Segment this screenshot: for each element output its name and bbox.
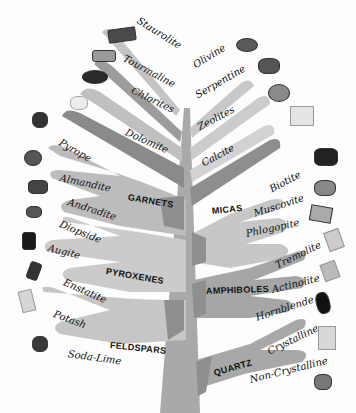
tree-branches: [0, 0, 356, 413]
gem-pyrope-icon: [32, 112, 48, 128]
gem-crystalline-quartz-icon: [318, 326, 336, 350]
gem-andradite-icon: [28, 180, 48, 194]
gem-zeolite-icon: [268, 84, 290, 102]
gem-non-crystalline-quartz-icon: [314, 374, 332, 390]
gem-tourmaline-icon: [92, 50, 116, 62]
gem-biotite-icon: [314, 148, 338, 166]
gem-calcite-icon: [290, 106, 314, 126]
gem-soda-lime-icon: [32, 336, 48, 352]
gem-diopside-icon: [26, 206, 42, 218]
gem-almandite-icon: [24, 150, 42, 166]
gem-serpentine-icon: [258, 58, 280, 74]
gem-muscovite-icon: [314, 180, 336, 196]
gem-chlorite-icon: [82, 70, 108, 84]
gem-augite-icon: [22, 232, 36, 250]
gem-dolomite-icon: [70, 96, 88, 110]
gem-olivine-icon: [236, 38, 258, 52]
mineral-tree-diagram: Staurolite Tourmaline Chlorites Dolomite…: [0, 0, 356, 413]
